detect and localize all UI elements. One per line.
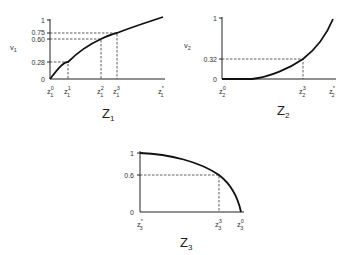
z3-axes bbox=[140, 151, 244, 212]
z2-guide-032 bbox=[222, 59, 303, 79]
z1-xlabel-star: z*1 bbox=[158, 85, 165, 98]
z2-ylabel-1: 1 bbox=[213, 15, 217, 22]
z1-xlabel-1: z11 bbox=[64, 85, 71, 98]
z2-title: Z2 bbox=[277, 103, 290, 120]
z2-value-curve bbox=[222, 19, 333, 79]
z3-ylabel-1: 1 bbox=[130, 150, 134, 157]
z1-xlabel-2: z21 bbox=[97, 85, 104, 98]
z1-axes bbox=[50, 19, 165, 79]
z3-value-curve bbox=[140, 153, 241, 212]
z3-xlabel-star: z*3 bbox=[137, 218, 144, 231]
z3-guide-06 bbox=[140, 175, 219, 212]
z1-ylabel-1: 1 bbox=[41, 17, 45, 24]
z1-xlabel-3: z31 bbox=[113, 85, 120, 98]
z3-xlabel-0: z03 bbox=[237, 218, 244, 231]
z1-guide-060 bbox=[50, 39, 101, 79]
z2-yvar: v2 bbox=[184, 41, 191, 51]
z3-ylabel-06: 0.6 bbox=[124, 172, 134, 179]
z2-xlabel-3: z32 bbox=[299, 85, 306, 98]
value-function-diagram: 1 0.75 0.60 0.28 0 v1 z01 z11 z21 z31 z*… bbox=[0, 0, 350, 255]
z1-ylabel-028: 0.28 bbox=[31, 59, 45, 66]
z1-ylabel-075: 0.75 bbox=[31, 29, 45, 36]
z1-ylabel-0: 0 bbox=[41, 76, 45, 83]
z2-ylabel-0: 0 bbox=[213, 76, 217, 83]
z2-axes bbox=[222, 17, 336, 79]
panel-z3: 1 0.6 0 z*3 z33 z03 Z3 bbox=[124, 150, 244, 253]
z2-xlabel-star: z*2 bbox=[329, 85, 336, 98]
z1-yvar: v1 bbox=[10, 43, 17, 53]
z2-ylabel-032: 0.32 bbox=[203, 56, 217, 63]
panel-z1: 1 0.75 0.60 0.28 0 v1 z01 z11 z21 z31 z*… bbox=[10, 17, 165, 124]
z1-ylabel-060: 0.60 bbox=[31, 36, 45, 43]
z1-guide-075 bbox=[50, 33, 117, 79]
z1-xlabel-0: z01 bbox=[47, 85, 54, 98]
z1-title: Z1 bbox=[102, 106, 115, 123]
z1-value-curve bbox=[50, 17, 163, 79]
panel-z2: 1 0.32 0 v2 z02 z32 z*2 Z2 bbox=[184, 15, 336, 120]
z3-title: Z3 bbox=[180, 235, 193, 252]
z3-xlabel-3: z33 bbox=[215, 218, 222, 231]
z3-ylabel-0: 0 bbox=[130, 209, 134, 216]
z2-xlabel-0: z02 bbox=[219, 85, 226, 98]
